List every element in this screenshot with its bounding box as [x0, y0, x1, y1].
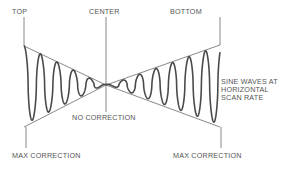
max-correction-right-label: MAX CORRECTION	[173, 152, 242, 160]
center-label: CENTER	[89, 8, 120, 16]
bottom-label: BOTTOM	[170, 8, 202, 16]
top-label: TOP	[12, 8, 27, 16]
no-correction-label: NO CORRECTION	[72, 114, 136, 122]
sine-waveform	[24, 46, 220, 122]
sine-wave-note: SINE WAVES AT HORIZONTAL SCAN RATE	[221, 78, 278, 103]
max-correction-left-label: MAX CORRECTION	[12, 152, 81, 160]
note-line-3: SCAN RATE	[221, 94, 278, 102]
